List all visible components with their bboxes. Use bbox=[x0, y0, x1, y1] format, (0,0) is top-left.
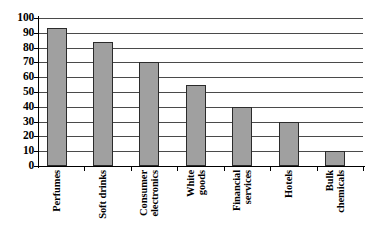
bar bbox=[139, 62, 159, 166]
y-axis-tick bbox=[34, 166, 39, 167]
x-category-label-line: Perfumes bbox=[51, 170, 62, 212]
x-category-label: Soft drinks bbox=[80, 170, 126, 242]
x-category-label-line: chemicals bbox=[335, 170, 346, 213]
plot-area bbox=[38, 18, 363, 166]
y-tick-label: 90 bbox=[0, 27, 34, 39]
y-tick-label: 40 bbox=[0, 101, 34, 113]
bar bbox=[186, 85, 206, 166]
y-tick-label: 70 bbox=[0, 57, 34, 69]
y-tick-label: 20 bbox=[0, 131, 34, 143]
x-category-label: Bulkchemicals bbox=[312, 170, 358, 242]
y-tick-label: 30 bbox=[0, 116, 34, 128]
x-axis-tick bbox=[363, 166, 364, 171]
y-tick-label: 100 bbox=[0, 12, 34, 24]
bar-chart-figure: 0102030405060708090100 PerfumesSoft drin… bbox=[0, 0, 377, 242]
bar bbox=[325, 151, 345, 166]
x-category-label: Consumerelectronics bbox=[126, 170, 172, 242]
x-category-label-line: Financial bbox=[231, 170, 242, 211]
x-category-label-line: electronics bbox=[149, 170, 160, 217]
bar bbox=[279, 122, 299, 166]
y-tick-label: 60 bbox=[0, 71, 34, 83]
x-category-label: Perfumes bbox=[33, 170, 79, 242]
x-category-label: Financialservices bbox=[219, 170, 265, 242]
y-tick-label: 50 bbox=[0, 86, 34, 98]
x-category-label-line: Soft drinks bbox=[97, 170, 108, 219]
bar bbox=[232, 107, 252, 166]
x-category-label-line: goods bbox=[196, 170, 207, 195]
y-axis-tick-labels: 0102030405060708090100 bbox=[0, 0, 34, 242]
y-tick-label: 10 bbox=[0, 145, 34, 157]
x-category-label: Hotels bbox=[266, 170, 312, 242]
bar bbox=[93, 42, 113, 166]
x-category-label-line: Consumer bbox=[138, 170, 149, 216]
x-category-label-line: Bulk bbox=[324, 170, 335, 191]
x-category-label-line: Hotels bbox=[283, 170, 294, 198]
x-axis-category-labels: PerfumesSoft drinksConsumerelectronicsWh… bbox=[38, 170, 363, 242]
bar bbox=[47, 28, 67, 166]
y-tick-label: 0 bbox=[0, 160, 34, 172]
x-category-label: Whitegoods bbox=[173, 170, 219, 242]
bars-group bbox=[38, 18, 363, 166]
x-category-label-line: services bbox=[242, 170, 253, 204]
x-category-label-line: White bbox=[185, 170, 196, 197]
y-tick-label: 80 bbox=[0, 42, 34, 54]
